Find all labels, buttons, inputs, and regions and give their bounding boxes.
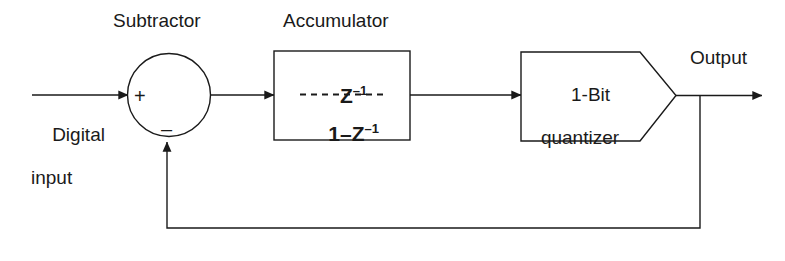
quantizer-caption: 1-Bit quantizer	[521, 63, 639, 191]
digital-input-line-2: input	[31, 167, 105, 188]
block-diagram: Subtractor Accumulator Digital input Out…	[0, 0, 785, 261]
denominator-exponent: –1	[365, 121, 379, 136]
accumulator-caption: Accumulator	[283, 10, 389, 31]
plus-polarity-sign: +	[134, 85, 146, 107]
denominator-base: 1–Z	[328, 122, 364, 145]
subtractor-caption: Subtractor	[113, 10, 201, 31]
output-caption: Output	[690, 47, 747, 68]
minus-polarity-sign: –	[161, 118, 172, 140]
transfer-function-denominator: 1–Z–1	[274, 98, 410, 169]
quantizer-line-1: 1-Bit	[571, 84, 610, 105]
digital-input-caption: Digital input	[31, 103, 105, 231]
numerator-exponent: –1	[353, 83, 367, 98]
quantizer-line-2: quantizer	[521, 127, 639, 148]
digital-input-line-1: Digital	[52, 124, 105, 145]
